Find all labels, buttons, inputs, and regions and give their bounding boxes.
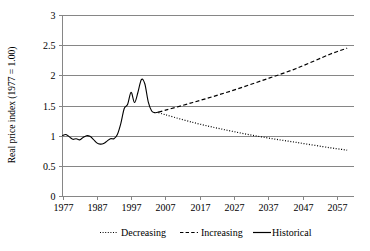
y-tick-label: 2 (51, 70, 56, 81)
chart-background (0, 0, 370, 251)
x-tick-label: 2037 (259, 202, 279, 213)
x-tick-label: 2027 (225, 202, 245, 213)
y-tick-label: 3 (51, 10, 56, 21)
chart-legend: Decreasing Increasing Historical (100, 227, 312, 238)
y-tick-label: 1.5 (43, 101, 56, 112)
x-tick-label: 2047 (294, 202, 314, 213)
y-tick-label: 0.5 (43, 161, 56, 172)
real-price-index-line-chart: 00.511.522.53 19771987199720072017202720… (0, 0, 370, 251)
x-tick-label: 2017 (191, 202, 211, 213)
x-tick-label: 2007 (156, 202, 176, 213)
x-tick-label: 2057 (328, 202, 348, 213)
y-axis-title: Real price index (1977 = 1.00) (7, 47, 18, 164)
x-axis-tick-labels: 197719871997200720172027203720472057 (54, 202, 348, 213)
x-tick-label: 1997 (122, 202, 142, 213)
x-tick-label: 1987 (88, 202, 108, 213)
x-tick-label: 1977 (54, 202, 74, 213)
legend-label-increasing: Increasing (201, 227, 243, 238)
legend-label-decreasing: Decreasing (121, 227, 166, 238)
legend-label-historical: Historical (272, 227, 312, 238)
y-tick-label: 0 (51, 191, 56, 202)
y-tick-label: 1 (51, 131, 56, 142)
chart-container: 00.511.522.53 19771987199720072017202720… (0, 0, 370, 251)
y-tick-label: 2.5 (43, 40, 56, 51)
